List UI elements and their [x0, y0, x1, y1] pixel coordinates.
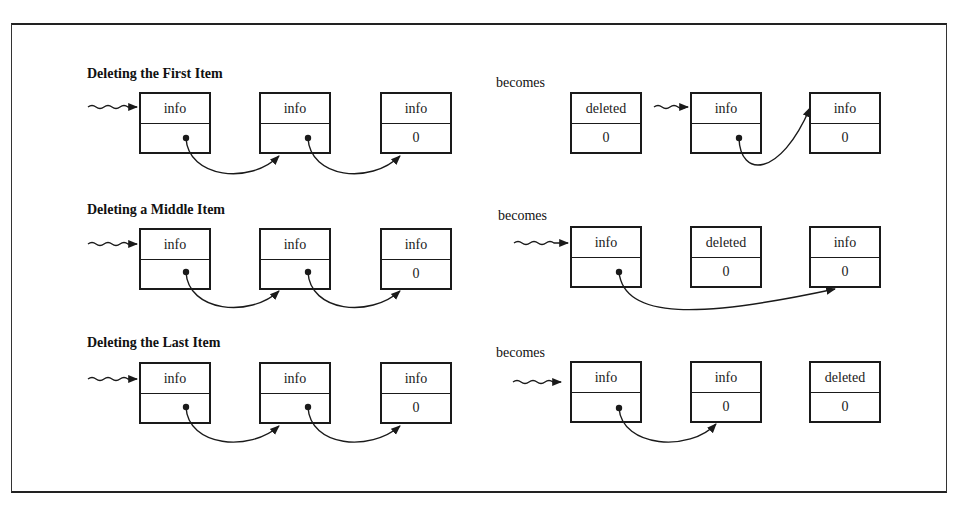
list-node: info 0 — [380, 362, 452, 424]
node-next: 0 — [811, 393, 879, 421]
list-node-deleted: deleted 0 — [570, 92, 642, 154]
section-heading-delete-last: Deleting the Last Item — [87, 335, 220, 351]
list-node: info 0 — [809, 92, 881, 154]
node-next: 0 — [382, 260, 450, 288]
node-next — [261, 260, 329, 288]
list-node: info — [259, 362, 331, 424]
list-node: info — [259, 92, 331, 154]
node-next — [141, 124, 209, 152]
node-next — [572, 393, 640, 421]
node-next — [261, 394, 329, 422]
node-info: info — [141, 230, 209, 260]
node-next: 0 — [811, 124, 879, 152]
becomes-label: becomes — [496, 345, 545, 361]
becomes-label: becomes — [498, 208, 547, 224]
node-next: 0 — [382, 124, 450, 152]
node-info: info — [692, 94, 760, 124]
node-next — [692, 124, 760, 152]
node-next — [141, 260, 209, 288]
node-info: info — [382, 230, 450, 260]
node-info: info — [572, 363, 640, 393]
list-node: info 0 — [690, 361, 762, 423]
node-info: info — [692, 363, 760, 393]
node-info: info — [261, 364, 329, 394]
node-info: info — [382, 94, 450, 124]
becomes-label: becomes — [496, 75, 545, 91]
node-info: info — [811, 94, 879, 124]
node-next: 0 — [692, 258, 760, 286]
section-heading-delete-middle: Deleting a Middle Item — [87, 202, 225, 218]
list-node: info — [690, 92, 762, 154]
node-info: info — [382, 364, 450, 394]
node-info: info — [141, 364, 209, 394]
list-node: info 0 — [380, 228, 452, 290]
node-info: info — [261, 94, 329, 124]
node-info: info — [261, 230, 329, 260]
list-node: info 0 — [809, 226, 881, 288]
list-node: info — [139, 228, 211, 290]
node-info: deleted — [811, 363, 879, 393]
list-node: info — [570, 226, 642, 288]
list-node: info — [259, 228, 331, 290]
list-node-deleted: deleted 0 — [690, 226, 762, 288]
node-info: deleted — [692, 228, 760, 258]
node-next: 0 — [382, 394, 450, 422]
node-next: 0 — [572, 124, 640, 152]
list-node: info — [570, 361, 642, 423]
node-info: info — [141, 94, 209, 124]
node-next — [261, 124, 329, 152]
list-node: info 0 — [380, 92, 452, 154]
node-info: info — [572, 228, 640, 258]
section-heading-delete-first: Deleting the First Item — [87, 66, 223, 82]
list-node-deleted: deleted 0 — [809, 361, 881, 423]
node-next — [141, 394, 209, 422]
list-node: info — [139, 362, 211, 424]
node-info: deleted — [572, 94, 640, 124]
node-next: 0 — [692, 393, 760, 421]
node-info: info — [811, 228, 879, 258]
list-node: info — [139, 92, 211, 154]
node-next — [572, 258, 640, 286]
node-next: 0 — [811, 258, 879, 286]
